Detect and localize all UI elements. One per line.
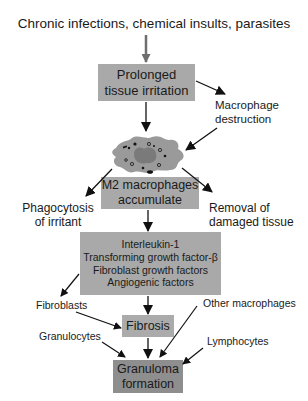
granuloma-formation-box: Granuloma formation [113,360,183,393]
arrow-destruction-to-cell [186,128,217,150]
node-line: Interleukin-1 [122,238,180,251]
granulocytes-label: Granulocytes [39,330,101,342]
node-line: M2 macrophages [102,178,199,193]
arrow-irritation-to-destruction [196,81,225,94]
arrow-cytokines-to-fibroblasts [61,274,79,296]
node-line: Angiogenic factors [107,276,193,289]
m2-macrophages-box: M2 macrophages accumulate [101,177,199,209]
node-line: Macrophage [215,99,279,113]
node-line: Phagocytosis [14,201,102,215]
arrow-granulocytes-to-granuloma [102,342,125,357]
node-line: destruction [215,113,279,127]
node-line: Granuloma [117,362,179,377]
node-line: tissue irritation [105,83,189,98]
arrow-lymphocytes-to-granuloma [183,348,203,364]
node-line: Fibroblast growth factors [93,264,208,277]
macrophage-destruction-label: Macrophage destruction [215,99,279,126]
prolonged-tissue-irritation-box: Prolonged tissue irritation [98,64,195,101]
node-line: of irritant [14,215,102,229]
node-line: Fibrosis [126,319,170,334]
phagocytosis-label: Phagocytosis of irritant [14,201,102,229]
node-line: Transforming growth factor-β [83,251,218,264]
diagram-title: Chronic infections, chemical insults, pa… [0,16,308,32]
removal-damaged-tissue-label: Removal of damaged tissue [209,201,294,229]
arrow-fibroblasts-to-fibrosis [76,312,121,328]
lymphocytes-label: Lymphocytes [207,335,268,347]
fibrosis-box: Fibrosis [122,315,174,337]
node-line: damaged tissue [209,215,294,229]
other-macrophages-label: Other macrophages [203,297,296,309]
node-line: accumulate [118,193,182,208]
node-line: formation [122,377,174,392]
node-line: Prolonged [117,67,176,82]
node-line: Removal of [209,201,294,215]
cytokines-box: Interleukin-1 Transforming growth factor… [80,232,221,295]
fibroblasts-label: Fibroblasts [36,299,87,311]
macrophage-cell-icon [110,134,190,176]
